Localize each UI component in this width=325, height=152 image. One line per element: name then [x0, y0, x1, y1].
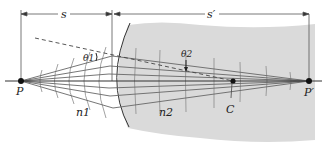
- wavefronts-medium-1: [40, 47, 106, 118]
- label-n2: n2: [159, 106, 173, 119]
- point-C: [230, 78, 235, 83]
- label-s: s: [61, 8, 67, 21]
- label-P: P: [15, 85, 24, 98]
- medium-2-region: [118, 23, 315, 143]
- label-theta2: θ2: [181, 49, 192, 59]
- point-P-prime: [306, 78, 312, 84]
- label-theta1: θ1: [83, 53, 94, 63]
- label-C: C: [226, 103, 235, 116]
- label-P-prime: P′: [303, 86, 314, 99]
- label-n1: n1: [76, 106, 90, 119]
- refraction-diagram: s s′ θ1 θ2 P C P′ n1 n2: [0, 0, 325, 152]
- label-s-prime: s′: [207, 8, 216, 21]
- theta1-arc: [96, 53, 97, 61]
- point-P: [18, 78, 24, 84]
